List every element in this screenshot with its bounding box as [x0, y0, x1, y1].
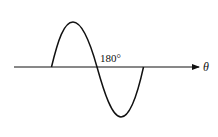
- angle-marker-label: 180°: [100, 52, 121, 64]
- sine-curve: [52, 22, 144, 117]
- sine-wave-diagram: 180° θ: [0, 0, 218, 137]
- theta-axis-label: θ: [203, 60, 209, 74]
